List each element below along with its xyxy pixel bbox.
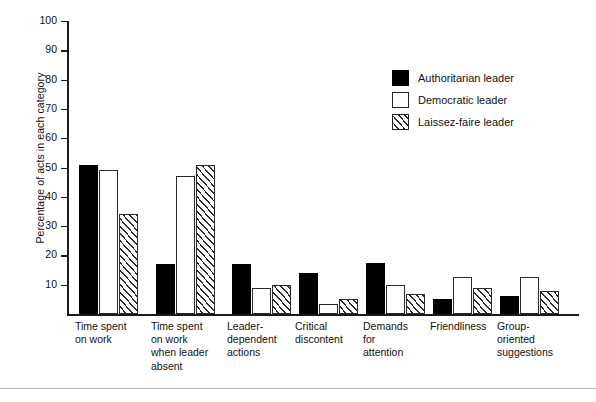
y-tick-label-50: 50 [45,161,57,173]
x-category-label: Leader-dependentactions [227,320,297,360]
x-category-label-line: oriented [497,333,577,346]
legend-item: Authoritarian leader [392,67,514,88]
y-tick-40: 40 [61,197,67,198]
x-category-label-line: on work [151,333,227,346]
footer-divider [0,388,596,389]
y-tick-label-40: 40 [45,190,57,202]
y-tick-90: 90 [61,50,67,51]
legend-swatch-open-icon [392,92,409,108]
y-axis-title: Percentage of acts in each category [34,38,46,278]
y-tick-10: 10 [61,285,67,286]
bar [156,264,175,314]
bar [176,176,195,314]
x-category-label-line: for [363,333,433,346]
y-tick-80: 80 [61,80,67,81]
x-category-label-line: on work [75,333,147,346]
bar-group [232,21,291,314]
y-tick-50: 50 [61,168,67,169]
bar-group [366,21,425,314]
plot-area: 102030405060708090100 [67,21,579,314]
y-tick-label-90: 90 [45,43,57,55]
x-category-label: Criticaldiscontent [295,320,365,346]
x-axis-line [67,314,579,316]
y-tick-label-70: 70 [45,102,57,114]
bar [540,291,559,314]
y-axis-line [67,21,69,315]
x-category-label-line: absent [151,360,227,373]
y-tick-label-60: 60 [45,131,57,143]
x-category-label-line: suggestions [497,346,577,359]
bar [433,299,452,314]
bar-group [299,21,358,314]
bar [79,165,98,314]
bar-group [433,21,492,314]
bar [339,299,358,314]
y-tick-20: 20 [61,255,67,256]
y-tick-label-10: 10 [45,278,57,290]
y-tick-100: 100 [61,21,67,22]
x-category-label-line: dependent [227,333,297,346]
chart-legend: Authoritarian leaderDemocratic leaderLai… [392,67,514,133]
bar [366,263,385,314]
x-category-label-line: Time spent [75,320,147,333]
legend-label: Democratic leader [418,94,507,106]
x-category-label-line: discontent [295,333,365,346]
y-tick-70: 70 [61,109,67,110]
bar [319,304,338,314]
bar [406,294,425,315]
legend-label: Authoritarian leader [418,72,514,84]
x-category-label-line: actions [227,346,297,359]
x-category-label: Group-orientedsuggestions [497,320,577,360]
x-category-label-line: Time spent [151,320,227,333]
x-category-label-line: when leader [151,346,227,359]
legend-swatch-hatch-icon [392,114,409,130]
bar-group [79,21,138,314]
legend-item: Laissez-faire leader [392,111,514,132]
bar-chart-figure: Percentage of acts in each category 1020… [0,0,596,402]
bar [473,288,492,314]
x-category-label: Time spenton work [75,320,147,346]
x-axis-category-labels: Time spenton workTime spenton workwhen l… [67,320,579,390]
x-category-label-line: Group- [497,320,577,333]
bar [99,170,118,314]
legend-swatch-solid-icon [392,70,409,86]
bar [386,285,405,314]
bar [232,264,251,314]
legend-item: Democratic leader [392,89,514,110]
bar [252,288,271,314]
y-tick-30: 30 [61,226,67,227]
y-tick-label-30: 30 [45,219,57,231]
bar [299,273,318,314]
legend-label: Laissez-faire leader [418,116,514,128]
y-tick-label-20: 20 [45,248,57,260]
y-tick-label-80: 80 [45,73,57,85]
x-category-label-line: Leader- [227,320,297,333]
x-category-label-line: Critical [295,320,365,333]
bar [500,296,519,314]
bar [196,165,215,314]
x-category-label: Time spenton workwhen leaderabsent [151,320,227,373]
x-category-label: Demandsforattention [363,320,433,360]
x-category-label-line: Demands [363,320,433,333]
bar [453,277,472,314]
x-category-label-line: attention [363,346,433,359]
bar [520,277,539,314]
y-tick-60: 60 [61,138,67,139]
bar [119,214,138,314]
bar-group [500,21,559,314]
y-tick-label-100: 100 [39,14,57,26]
bar-group [156,21,215,314]
bar [272,285,291,314]
